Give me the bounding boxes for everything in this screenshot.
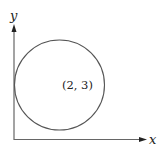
y-axis-arrow-icon xyxy=(12,24,17,32)
x-axis-label: x xyxy=(149,132,157,147)
diagram-canvas: y x (2, 3) xyxy=(0,0,160,155)
x-axis-arrow-icon xyxy=(139,137,147,142)
y-axis-label: y xyxy=(9,8,18,23)
center-label: (2, 3) xyxy=(62,78,93,92)
